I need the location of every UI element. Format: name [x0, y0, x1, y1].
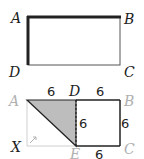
label-d: D: [8, 64, 20, 80]
label-x: X: [10, 139, 22, 155]
measure-de: 6: [79, 116, 87, 131]
label-b: B: [123, 93, 134, 109]
fold-arrow-icon: [30, 137, 36, 143]
figure-2-fold: A D B C E X 6 6 6 6 6: [7, 83, 135, 159]
measure-ad: 6: [47, 84, 55, 99]
label-e: E: [69, 146, 80, 159]
geometry-diagram: A B C D A D B C E X 6 6 6 6 6: [0, 0, 144, 159]
label-d: D: [68, 83, 80, 99]
label-a: A: [9, 10, 21, 26]
measure-bc: 6: [121, 116, 129, 131]
label-c: C: [124, 64, 135, 80]
figure-1-rectangle: A B C D: [8, 10, 135, 80]
measure-ec: 6: [95, 147, 103, 159]
label-a: A: [7, 93, 19, 109]
rectangle-abcd: [28, 17, 120, 65]
measure-db: 6: [96, 84, 104, 99]
label-b: B: [123, 11, 134, 27]
label-c: C: [124, 141, 135, 157]
